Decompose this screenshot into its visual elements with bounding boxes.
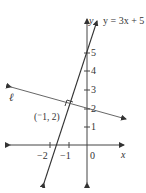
point-label: (⁻1, 2) (34, 113, 60, 123)
x-axis-label: x (121, 150, 125, 160)
y-tick-label-1: 1 (91, 122, 96, 132)
line-l-label: ℓ (9, 92, 14, 103)
graph-canvas (0, 0, 146, 193)
y-tick-label-3: 3 (91, 85, 96, 95)
y-tick-label-2: 2 (91, 104, 96, 114)
line-l (11, 87, 126, 119)
x-tick-label-neg1: −1 (60, 151, 71, 161)
origin-label: 0 (90, 151, 95, 161)
y-tick-label-4: 4 (91, 66, 96, 76)
y-tick-label-5: 5 (91, 48, 96, 58)
coordinate-diagram: y y = 3x + 5 5 4 3 2 1 ℓ (⁻1, 2) −2 −1 0… (0, 0, 146, 193)
y-axis-label: y (89, 16, 93, 26)
x-tick-label-neg2: −2 (37, 151, 48, 161)
equation-label: y = 3x + 5 (103, 16, 144, 26)
